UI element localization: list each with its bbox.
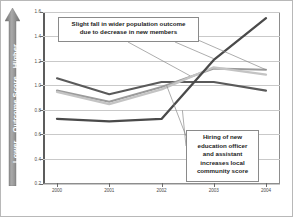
chart-screenshot: Lower Outcome Score Higher 0.20.40.60.81… [0, 0, 293, 217]
y-tick-label: 1.2 [23, 59, 41, 64]
y-axis-ticks: 0.20.40.60.81.01.21.41.6 [20, 12, 41, 184]
annotation-population: Slight fall in wider population outcomed… [58, 17, 199, 42]
y-axis-label-lower: Lower [11, 138, 20, 166]
y-tick-label: 1.6 [23, 9, 41, 14]
x-tick-mark [266, 183, 267, 187]
y-tick-label: 1.0 [23, 83, 41, 88]
x-tick-label: 2001 [94, 188, 124, 193]
y-axis-label-title: Outcome Score [11, 73, 20, 135]
y-axis-label-higher: Higher [11, 41, 20, 71]
annotation-hiring: Hiring of neweducation officerand assist… [186, 130, 259, 182]
annotation-line: due to decrease in new members [80, 28, 177, 35]
annotation-line: increases local [200, 159, 244, 166]
y-tick-label: 1.4 [23, 34, 41, 39]
y-tick-label: 0.8 [23, 108, 41, 113]
x-tick-label: 2003 [199, 188, 229, 193]
x-tick-mark [162, 183, 163, 187]
annotation-line: community score [197, 167, 248, 174]
annotation-line: Slight fall in wider population outcome [72, 20, 186, 27]
x-tick-mark [57, 183, 58, 187]
x-tick-label: 2002 [147, 188, 177, 193]
annotation-line: Hiring of new [203, 133, 242, 140]
x-tick-mark [109, 183, 110, 187]
x-axis-ticks: 20002001200220032004 [43, 186, 280, 200]
annotation-line: and assistant [203, 150, 243, 157]
x-tick-label: 2000 [42, 188, 72, 193]
annotation-line: education officer [198, 142, 248, 149]
y-tick-label: 0.4 [23, 157, 41, 162]
x-tick-mark [214, 183, 215, 187]
y-axis-arrow: Lower Outcome Score Higher [5, 8, 20, 186]
y-tick-label: 0.2 [23, 181, 41, 186]
x-tick-label: 2004 [251, 188, 281, 193]
y-tick-label: 0.6 [23, 132, 41, 137]
